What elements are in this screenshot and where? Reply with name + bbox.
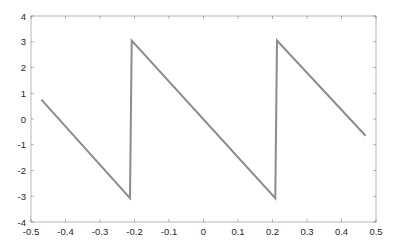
plot-area: [41, 41, 365, 199]
y-tick-label: -1: [18, 139, 26, 150]
x-tick-label: 0: [201, 226, 206, 237]
x-tick-label: -0.1: [161, 226, 177, 237]
y-tick-label: 3: [21, 36, 26, 47]
x-tick-label: 0.1: [231, 226, 244, 237]
y-tick-label: -3: [18, 191, 26, 202]
y-tick-label: 4: [21, 11, 26, 22]
y-axis: -4-3-2-101234: [18, 11, 376, 228]
x-tick-label: 0.4: [335, 226, 348, 237]
x-tick-label: -0.2: [126, 226, 142, 237]
x-axis: -0.5-0.4-0.3-0.2-0.100.10.20.30.40.5: [23, 16, 383, 237]
x-tick-label: -0.5: [23, 226, 39, 237]
x-tick-label: 0.5: [369, 226, 382, 237]
y-tick-label: -2: [18, 165, 26, 176]
x-tick-label: -0.4: [57, 226, 73, 237]
x-tick-label: -0.3: [92, 226, 108, 237]
y-tick-label: -4: [18, 217, 26, 228]
x-tick-label: 0.3: [300, 226, 313, 237]
series-line-sawtooth: [41, 41, 365, 199]
sawtooth-chart: -0.5-0.4-0.3-0.2-0.100.10.20.30.40.5 -4-…: [0, 0, 397, 248]
y-tick-label: 2: [21, 62, 26, 73]
x-tick-label: 0.2: [266, 226, 279, 237]
y-tick-label: 0: [21, 114, 26, 125]
y-tick-label: 1: [21, 88, 26, 99]
